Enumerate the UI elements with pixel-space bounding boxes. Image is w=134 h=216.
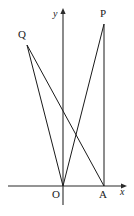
point-label-A: A [99,189,107,200]
segment-QO [27,45,63,186]
segment-OP [63,24,104,186]
point-label-O: O [52,189,60,200]
geometry-figure: O A P Q y x [0,0,134,216]
point-label-P: P [100,8,106,19]
y-axis-arrow-icon [60,8,65,14]
x-axis-label: x [120,187,124,197]
point-label-Q: Q [18,29,26,40]
segment-QA [27,45,104,186]
y-axis-label: y [53,9,57,19]
